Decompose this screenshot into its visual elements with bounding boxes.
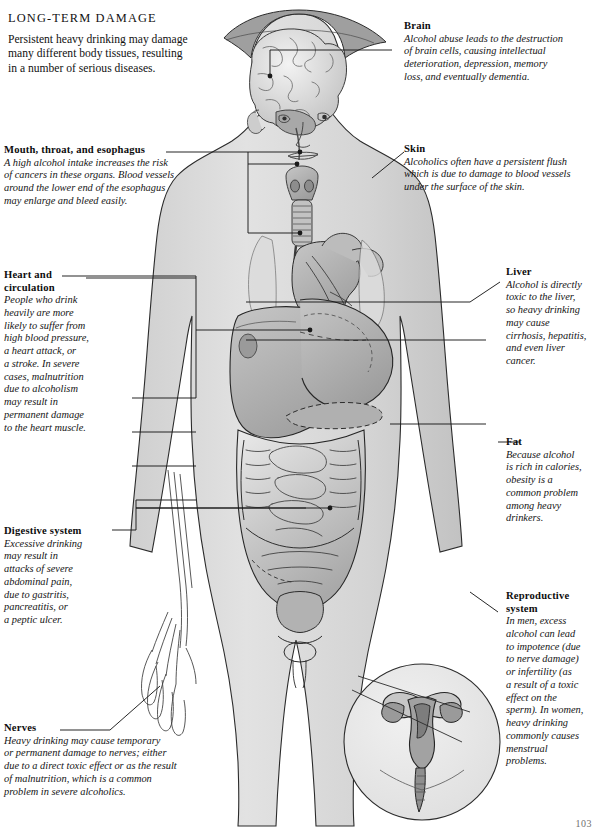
callout-brain: Brain Alcohol abuse leads to the destruc… [404,20,594,84]
callout-liver-title: Liver [506,266,598,279]
callout-heart-and-circulation: Heart andcirculation People who drinkhea… [4,269,126,434]
callout-reproductive-system-title: Reproductivesystem [506,590,598,615]
page-title: LONG-TERM DAMAGE [8,11,248,26]
callout-brain-title: Brain [404,20,594,33]
headline-block: LONG-TERM DAMAGE Persistent heavy drinki… [8,11,248,76]
callout-fat-body: Because alcoholis rich in calories,obesi… [506,449,598,526]
callout-skin-body: Alcoholics often have a persistent flush… [404,156,596,194]
callout-heart-and-circulation-title: Heart andcirculation [4,269,126,294]
diagram-page: LONG-TERM DAMAGE Persistent heavy drinki… [0,0,598,830]
callout-mouth-throat-esophagus-body: A high alcohol intake increases the risk… [4,157,236,208]
callout-mouth-throat-esophagus-title: Mouth, throat, and esophagus [4,144,236,157]
uterus-inset [344,664,500,820]
callout-fat: Fat Because alcoholis rich in calories,o… [506,436,598,525]
page-number: 103 [576,818,593,829]
callout-nerves: Nerves Heavy drinking may cause temporar… [4,722,256,798]
callout-reproductive-system: Reproductivesystem In men, excessalcohol… [506,590,598,768]
callout-digestive-system-title: Digestive system [4,525,126,538]
callout-fat-title: Fat [506,436,598,449]
callout-skin: Skin Alcoholics often have a persistent … [404,143,596,194]
callout-mouth-throat-esophagus: Mouth, throat, and esophagus A high alco… [4,144,236,208]
callout-heart-and-circulation-body: People who drinkheavily are morelikely t… [4,294,126,434]
callout-nerves-body: Heavy drinking may cause temporaryor per… [4,735,256,799]
intro-paragraph: Persistent heavy drinking may damagemany… [8,33,248,76]
callout-skin-title: Skin [404,143,596,156]
callout-brain-body: Alcohol abuse leads to the destructionof… [404,33,594,84]
callout-liver-body: Alcohol is directlytoxic to the liver,so… [506,279,598,368]
callout-digestive-system-body: Excessive drinkingmay result inattacks o… [4,538,126,627]
callout-liver: Liver Alcohol is directlytoxic to the li… [506,266,598,368]
callout-nerves-title: Nerves [4,722,256,735]
callout-reproductive-system-body: In men, excessalcohol can leadto impoten… [506,615,598,768]
callout-digestive-system: Digestive system Excessive drinkingmay r… [4,525,126,627]
